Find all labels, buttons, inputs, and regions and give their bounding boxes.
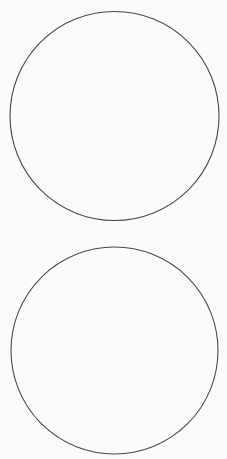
scanned-page [0, 0, 227, 459]
top-circle [10, 12, 219, 221]
bottom-circle [11, 247, 218, 454]
diagram-canvas [0, 0, 227, 459]
